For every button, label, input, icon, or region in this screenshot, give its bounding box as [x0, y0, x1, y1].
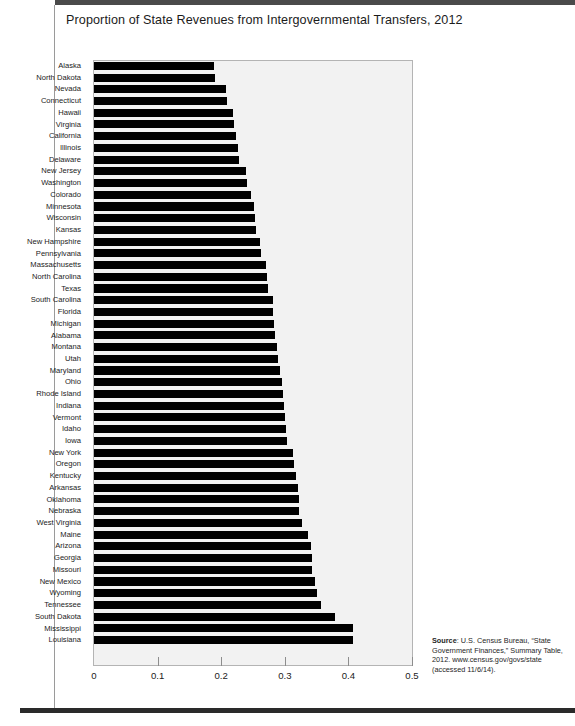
bar [94, 308, 273, 316]
bar-rows: AlaskaNorth DakotaNevadaConnecticutHawai… [0, 60, 575, 646]
bar-category-label: Pennsylvania [0, 248, 81, 260]
bar-category-label: Arizona [0, 540, 81, 552]
bar [94, 519, 302, 527]
bar-category-label: Georgia [0, 552, 81, 564]
bar-category-label: Vermont [0, 412, 81, 424]
bar-category-label: Massachusetts [0, 259, 81, 271]
bar-row: Kentucky [0, 470, 575, 482]
bar-row: Utah [0, 353, 575, 365]
bar [94, 413, 285, 421]
bar [94, 390, 283, 398]
x-axis-tick-label: 0.2 [215, 670, 228, 681]
bar-row: North Carolina [0, 271, 575, 283]
source-note: Source: U.S. Census Bureau, “State Gover… [432, 636, 570, 674]
bar [94, 495, 299, 503]
x-axis-tick-label: 0.4 [342, 670, 355, 681]
bar [94, 402, 284, 410]
bar [94, 531, 308, 539]
bar-category-label: Rhode Island [0, 388, 81, 400]
bar-row: Kansas [0, 224, 575, 236]
bar-category-label: Connecticut [0, 95, 81, 107]
bar-row: Idaho [0, 423, 575, 435]
bar-category-label: Colorado [0, 189, 81, 201]
bar-category-label: Florida [0, 306, 81, 318]
bar-row: Michigan [0, 318, 575, 330]
bar [94, 273, 267, 281]
bar-category-label: Maryland [0, 365, 81, 377]
bar [94, 109, 233, 117]
bar-category-label: Texas [0, 283, 81, 295]
bar-category-label: North Dakota [0, 72, 81, 84]
bar-row: Oklahoma [0, 494, 575, 506]
bar-row: New Jersey [0, 165, 575, 177]
bar [94, 437, 287, 445]
bar [94, 320, 274, 328]
bar-row: Arkansas [0, 482, 575, 494]
bar-row: Rhode Island [0, 388, 575, 400]
bar-category-label: New York [0, 447, 81, 459]
x-axis-tick-label: 0.5 [405, 670, 418, 681]
bar [94, 613, 335, 621]
bar-category-label: Indiana [0, 400, 81, 412]
x-axis-tick-label: 0 [91, 670, 96, 681]
bar-category-label: Oklahoma [0, 494, 81, 506]
bar-category-label: South Dakota [0, 611, 81, 623]
bar-category-label: Utah [0, 353, 81, 365]
bar-category-label: Tennessee [0, 599, 81, 611]
bar [94, 624, 353, 632]
bar-row: New Mexico [0, 576, 575, 588]
bar-category-label: Mississippi [0, 623, 81, 635]
bar [94, 202, 254, 210]
bar-row: Pennsylvania [0, 248, 575, 260]
bar [94, 156, 239, 164]
bar [94, 577, 315, 585]
bar-category-label: North Carolina [0, 271, 81, 283]
bar [94, 284, 268, 292]
bar [94, 554, 312, 562]
bar [94, 62, 214, 70]
bar-row: Montana [0, 341, 575, 353]
bar-category-label: Montana [0, 341, 81, 353]
bar-row: Nevada [0, 83, 575, 95]
bar-category-label: Michigan [0, 318, 81, 330]
bar-row: Florida [0, 306, 575, 318]
bar-category-label: Kansas [0, 224, 81, 236]
bar [94, 484, 298, 492]
bar-category-label: New Jersey [0, 165, 81, 177]
bar [94, 601, 321, 609]
bar-category-label: Wyoming [0, 587, 81, 599]
bar [94, 425, 286, 433]
bar-row: Minnesota [0, 201, 575, 213]
bar [94, 449, 293, 457]
bar-row: Alaska [0, 60, 575, 72]
bar-row: Missouri [0, 564, 575, 576]
bar-row: Delaware [0, 154, 575, 166]
bar-row: Tennessee [0, 599, 575, 611]
bar [94, 343, 277, 351]
bar [94, 378, 282, 386]
bar-category-label: Minnesota [0, 201, 81, 213]
bar-category-label: Alaska [0, 60, 81, 72]
bar [94, 249, 261, 257]
x-axis-tick-label: 0.3 [278, 670, 291, 681]
bar-row: Arizona [0, 540, 575, 552]
bar-category-label: Ohio [0, 376, 81, 388]
bar-row: West Virginia [0, 517, 575, 529]
bar [94, 472, 296, 480]
bar-row: Vermont [0, 412, 575, 424]
bar-row: South Carolina [0, 294, 575, 306]
bar [94, 238, 260, 246]
bar-row: Iowa [0, 435, 575, 447]
x-axis-tick-label: 0.1 [151, 670, 164, 681]
bar [94, 542, 311, 550]
bar-category-label: Washington [0, 177, 81, 189]
bar-category-label: Virginia [0, 119, 81, 131]
bar-row: Georgia [0, 552, 575, 564]
bar-category-label: Arkansas [0, 482, 81, 494]
bar [94, 97, 227, 105]
bar-category-label: Missouri [0, 564, 81, 576]
bar [94, 120, 234, 128]
bar-category-label: Alabama [0, 330, 81, 342]
bar-row: Texas [0, 283, 575, 295]
bar-row: Wyoming [0, 587, 575, 599]
